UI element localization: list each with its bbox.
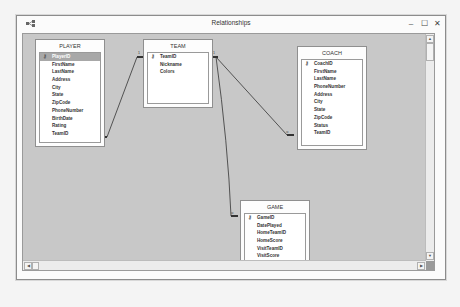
field-item[interactable]: City	[302, 98, 362, 106]
field-item[interactable]: FirstName	[40, 61, 100, 69]
scroll-down-button[interactable]: ▼	[426, 252, 434, 260]
relationships-window: Relationships – ☐ ✕ 1 1 ∞	[16, 15, 446, 280]
scroll-right-button[interactable]: ▶	[417, 262, 425, 270]
field-item[interactable]: LastName	[40, 68, 100, 76]
table-team[interactable]: TEAM ⚷TeamID Nickname Colors	[143, 39, 213, 108]
field-list: ⚷CoachID FirstName LastName PhoneNumber …	[301, 59, 363, 146]
table-coach[interactable]: COACH ⚷CoachID FirstName LastName PhoneN…	[297, 46, 367, 150]
field-item[interactable]: HomeTeamID	[245, 229, 305, 237]
vertical-scrollbar[interactable]: ▲ ▼	[425, 34, 434, 261]
scroll-up-button[interactable]: ▲	[426, 35, 434, 43]
field-list: ⚷TeamID Nickname Colors	[147, 52, 209, 104]
field-item[interactable]: Rating	[40, 122, 100, 130]
field-item[interactable]: Nickname	[148, 61, 208, 69]
title-bar[interactable]: Relationships – ☐ ✕	[17, 16, 445, 32]
field-item[interactable]: Address	[40, 76, 100, 84]
svg-text:∞: ∞	[231, 211, 234, 215]
field-item[interactable]: Status	[302, 122, 362, 130]
field-item[interactable]: PhoneNumber	[302, 83, 362, 91]
key-icon: ⚷	[43, 53, 47, 61]
minimize-button[interactable]: –	[405, 18, 417, 30]
table-title: TEAM	[144, 40, 212, 51]
table-title: GAME	[241, 201, 309, 212]
field-item[interactable]: ⚷TeamID	[148, 53, 208, 61]
field-item[interactable]: State	[40, 91, 100, 99]
vertical-scroll-thumb[interactable]	[426, 43, 434, 61]
key-icon: ⚷	[305, 60, 309, 68]
scrollbar-corner	[426, 261, 434, 270]
table-title: COACH	[298, 47, 366, 58]
close-button[interactable]: ✕	[431, 18, 443, 30]
scroll-left-button[interactable]: ◀	[24, 262, 32, 270]
field-item[interactable]: FirstName	[302, 68, 362, 76]
window-title: Relationships	[17, 19, 445, 26]
relationships-canvas[interactable]: 1 1 ∞ ∞ ∞ PLAYER ⚷PlayerID FirstName Las…	[22, 33, 435, 271]
one-label: 1	[138, 51, 140, 55]
field-item[interactable]: LastName	[302, 75, 362, 83]
field-item[interactable]: VisitTeamID	[245, 245, 305, 253]
field-item[interactable]: ⚷CoachID	[302, 60, 362, 68]
field-item[interactable]: ZipCode	[40, 99, 100, 107]
field-item[interactable]: ZipCode	[302, 114, 362, 122]
horizontal-scroll-thumb[interactable]	[32, 262, 39, 270]
svg-text:∞: ∞	[286, 130, 289, 134]
field-item[interactable]: City	[40, 84, 100, 92]
field-item[interactable]: Colors	[148, 68, 208, 76]
svg-text:1: 1	[213, 51, 215, 55]
key-icon: ⚷	[151, 53, 155, 61]
field-list: ⚷PlayerID FirstName LastName Address Cit…	[39, 52, 101, 143]
field-item[interactable]: ⚷GameID	[245, 214, 305, 222]
field-item[interactable]: VisitScore	[245, 252, 305, 260]
field-item[interactable]: TeamID	[302, 129, 362, 137]
field-item[interactable]: BirthDate	[40, 115, 100, 123]
field-item[interactable]: DatePlayed	[245, 222, 305, 230]
field-item[interactable]: ⚷PlayerID	[40, 53, 100, 61]
maximize-button[interactable]: ☐	[418, 18, 430, 30]
field-item[interactable]: PhoneNumber	[40, 107, 100, 115]
field-item[interactable]: HomeScore	[245, 237, 305, 245]
table-player[interactable]: PLAYER ⚷PlayerID FirstName LastName Addr…	[35, 39, 105, 147]
table-title: PLAYER	[36, 40, 104, 51]
field-item[interactable]: State	[302, 106, 362, 114]
horizontal-scrollbar[interactable]: ◀ ▶	[23, 260, 426, 270]
field-item[interactable]: Address	[302, 91, 362, 99]
field-item[interactable]: TeamID	[40, 130, 100, 138]
key-icon: ⚷	[248, 214, 252, 222]
